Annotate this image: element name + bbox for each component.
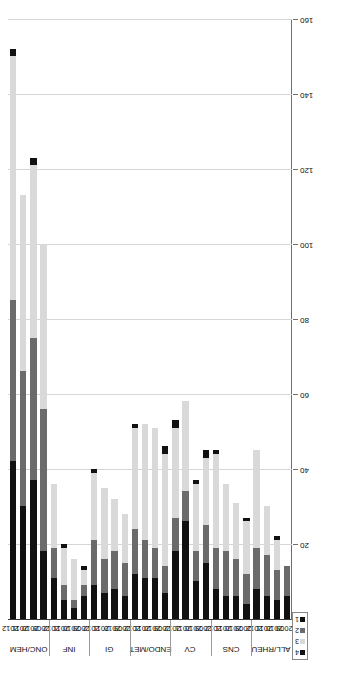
bar-segment-3: [91, 473, 97, 541]
bar-segment-2: [162, 567, 168, 593]
bar-stack: [111, 499, 117, 619]
bar-stack: [142, 424, 148, 619]
value-tick-label: 80: [300, 316, 309, 325]
bar-segment-3: [264, 507, 270, 556]
bar-segment-3: [182, 402, 188, 492]
bar-segment-2: [81, 585, 87, 596]
bar-segment-1: [132, 574, 138, 619]
bar-segment-2: [284, 567, 290, 597]
bar-stack: [51, 484, 57, 619]
bar-segment-1: [71, 608, 77, 619]
bar-stack: [101, 488, 107, 619]
bar-segment-1: [30, 480, 36, 619]
bar-segment-3: [71, 559, 77, 600]
bar-stack: [10, 49, 16, 619]
bar-segment-1: [172, 552, 178, 620]
bar-segment-4: [213, 450, 219, 454]
bar-stack: [91, 469, 97, 619]
stacked-bar-chart: 020406080100120140160 200920102011201220…: [0, 0, 342, 674]
bar-stack: [81, 567, 87, 620]
bar-segment-1: [182, 522, 188, 620]
value-tick-label: 40: [300, 466, 309, 475]
bar-segment-1: [81, 597, 87, 620]
bar-segment-3: [162, 454, 168, 567]
legend-item[interactable]: 3: [295, 638, 305, 645]
bar-segment-3: [193, 484, 199, 552]
bar-segment-1: [233, 597, 239, 620]
therapeutic-area-label: ENDO/MET: [130, 645, 171, 654]
bar-segment-2: [193, 552, 199, 582]
bar-stack: [203, 450, 209, 619]
bar-segment-1: [284, 597, 290, 620]
therapeutic-area-label: ONC/HEM: [8, 645, 49, 654]
bar-segment-3: [51, 484, 57, 548]
bar-segment-3: [223, 484, 229, 552]
bar-segment-2: [233, 559, 239, 597]
bar-segment-1: [264, 597, 270, 620]
bar-stack: [132, 424, 138, 619]
bar-segment-3: [40, 244, 46, 409]
year-label: 2012: [2, 624, 19, 633]
gridline: [8, 169, 292, 170]
bar-segment-2: [61, 585, 67, 600]
bar-segment-1: [101, 593, 107, 619]
bar-segment-2: [172, 518, 178, 552]
bar-stack: [193, 480, 199, 619]
value-tick-label: 140: [300, 91, 313, 100]
gridline: [8, 319, 292, 320]
bar-segment-1: [122, 597, 128, 620]
bar-segment-2: [132, 529, 138, 574]
bar-segment-2: [253, 548, 259, 589]
bar-segment-1: [193, 582, 199, 620]
group-separator: [130, 620, 131, 656]
group-separator: [251, 620, 252, 656]
bar-segment-4: [172, 420, 178, 428]
plot-area: [8, 20, 292, 620]
bar-segment-2: [51, 548, 57, 578]
legend-item[interactable]: 1: [295, 616, 305, 623]
bar-stack: [152, 428, 158, 619]
legend[interactable]: 1234: [292, 612, 308, 660]
bar-stack: [253, 450, 259, 619]
bar-segment-3: [61, 548, 67, 586]
legend-label: 1: [295, 616, 299, 623]
axis-tick: [293, 394, 298, 395]
legend-label: 3: [295, 638, 299, 645]
bar-segment-2: [223, 552, 229, 597]
bar-stack: [223, 484, 229, 619]
bar-stack: [61, 544, 67, 619]
bar-segment-4: [30, 158, 36, 166]
bar-segment-2: [203, 525, 209, 563]
legend-item[interactable]: 2: [295, 627, 305, 634]
bar-stack: [182, 402, 188, 620]
bar-segment-2: [142, 540, 148, 578]
therapeutic-area-label: CV: [170, 645, 211, 654]
bar-stack: [243, 518, 249, 619]
bar-segment-2: [30, 338, 36, 481]
bar-stack: [71, 559, 77, 619]
bar-segment-2: [71, 600, 77, 608]
bar-stack: [122, 514, 128, 619]
axis-tick: [293, 544, 298, 545]
bar-segment-3: [101, 488, 107, 559]
bar-segment-1: [142, 578, 148, 619]
gridline: [8, 94, 292, 95]
bar-segment-1: [61, 600, 67, 619]
bar-stack: [30, 158, 36, 619]
bar-segment-2: [152, 548, 158, 578]
gridline: [8, 244, 292, 245]
therapeutic-area-label: GI: [89, 645, 130, 654]
legend-item[interactable]: 4: [295, 649, 305, 656]
legend-swatch: [300, 617, 305, 622]
bar-segment-2: [243, 574, 249, 604]
bar-segment-1: [91, 585, 97, 619]
bar-stack: [20, 195, 26, 619]
bar-stack: [284, 567, 290, 620]
legend-label: 2: [295, 627, 299, 634]
gridline: [8, 19, 292, 20]
bar-segment-2: [20, 372, 26, 507]
bar-segment-2: [182, 492, 188, 522]
bar-stack: [40, 244, 46, 619]
bar-segment-2: [91, 540, 97, 585]
bar-segment-3: [30, 165, 36, 338]
